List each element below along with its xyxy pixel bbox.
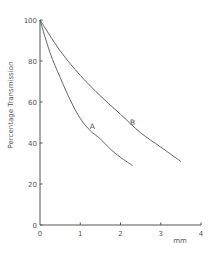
axes <box>40 20 201 225</box>
x-tick-label: 1 <box>78 230 82 238</box>
x-tick-label: 0 <box>38 230 42 238</box>
y-tick-label: 100 <box>24 17 37 25</box>
x-tick-label: 2 <box>118 230 122 238</box>
y-tick-label: 40 <box>28 140 37 148</box>
curve-label-b: B <box>130 118 135 127</box>
x-tick-label: 4 <box>199 230 204 238</box>
data-curves: AB <box>40 20 181 166</box>
x-axis-label: mm <box>173 237 187 245</box>
y-axis-label: Percentage Transmission <box>7 62 15 149</box>
transmission-chart: 01234020406080100 AB Percentage Transmis… <box>0 0 223 260</box>
axis-ticks: 01234020406080100 <box>24 17 204 239</box>
curve-b <box>40 20 181 161</box>
curve-label-a: A <box>90 122 96 131</box>
y-tick-label: 60 <box>28 99 37 107</box>
chart-canvas: 01234020406080100 AB Percentage Transmis… <box>0 0 223 260</box>
y-tick-label: 20 <box>28 181 37 189</box>
y-tick-label: 80 <box>28 58 37 66</box>
y-tick-label: 0 <box>33 222 37 230</box>
x-tick-label: 3 <box>159 230 163 238</box>
